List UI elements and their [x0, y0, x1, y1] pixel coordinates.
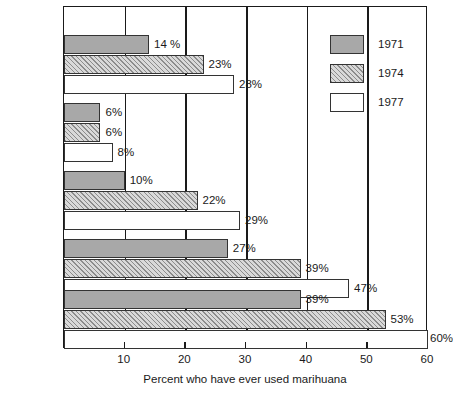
legend-swatch-1971	[330, 35, 364, 54]
bar-value-14-15-1974: 22%	[203, 195, 226, 207]
bar-14-15-1974	[64, 191, 198, 210]
legend-swatch-1974	[330, 64, 364, 83]
x-tick-label-30: 30	[239, 353, 252, 365]
gridline-50	[367, 7, 369, 347]
bar-18-25-1974	[64, 310, 386, 329]
x-tick-label-60: 60	[421, 353, 434, 365]
bar-value-all-youth-1974: 23%	[209, 59, 232, 71]
legend-label-1977: 1977	[378, 96, 404, 108]
bar-value-18-25-1977: 60%	[430, 333, 453, 345]
x-tick-20	[184, 342, 185, 348]
bar-value-14-15-1971: 10%	[130, 175, 153, 187]
bar-value-14-15-1977: 29%	[245, 215, 268, 227]
bar-value-16-17-1977: 47%	[354, 283, 377, 295]
legend-label-1974: 1974	[378, 67, 404, 79]
bar-value-12-13-1974: 6%	[106, 127, 123, 139]
bar-value-16-17-1971: 27%	[233, 243, 256, 255]
bar-value-12-13-1971: 6%	[106, 107, 123, 119]
bar-value-16-17-1974: 39%	[306, 263, 329, 275]
bar-all-youth-1977	[64, 75, 234, 94]
x-axis-title: Percent who have ever used marihuana	[63, 373, 427, 385]
x-axis: 10 20 30 40 50 60	[63, 348, 427, 349]
bar-18-25-1971	[64, 290, 301, 309]
bar-value-12-13-1977: 8%	[118, 147, 135, 159]
plot-area: 14 % 23% 28% 6% 6% 8% 10% 22% 29% 27% 39…	[63, 6, 427, 348]
bar-16-17-1971	[64, 239, 228, 258]
bar-12-13-1974	[64, 123, 100, 142]
bar-value-all-youth-1977: 28%	[239, 79, 262, 91]
x-tick-label-50: 50	[360, 353, 373, 365]
bar-all-youth-1974	[64, 55, 204, 74]
x-tick-label-10: 10	[117, 353, 130, 365]
bar-value-18-25-1974: 53%	[391, 314, 414, 326]
x-tick-label-20: 20	[178, 353, 191, 365]
bar-value-all-youth-1971: 14 %	[154, 39, 180, 51]
bar-12-13-1971	[64, 103, 100, 122]
bar-14-15-1977	[64, 211, 240, 230]
legend-swatch-1977	[330, 93, 364, 112]
bar-16-17-1974	[64, 259, 301, 278]
x-tick-label-40: 40	[299, 353, 312, 365]
legend-label-1971: 1971	[378, 38, 404, 50]
bar-value-18-25-1971: 39%	[306, 294, 329, 306]
x-tick-50	[366, 342, 367, 348]
bar-12-13-1977	[64, 143, 113, 162]
x-tick-30	[245, 342, 246, 348]
bar-14-15-1971	[64, 171, 125, 190]
bar-all-youth-1971	[64, 35, 149, 54]
x-tick-40	[306, 342, 307, 348]
x-tick-10	[124, 342, 125, 348]
